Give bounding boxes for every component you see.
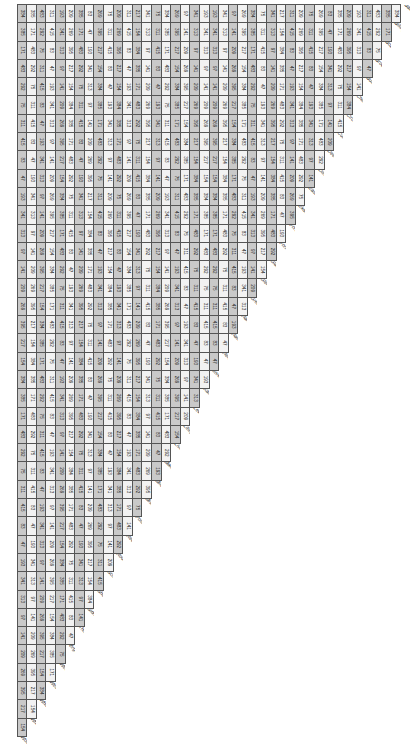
empty-cell <box>363 96 373 114</box>
empty-cell <box>286 736 296 754</box>
distance-cell: 47 <box>238 242 248 260</box>
distance-cell: 193 <box>132 224 142 242</box>
distance-cell: 483 <box>142 224 152 242</box>
empty-cell <box>391 316 401 334</box>
empty-cell <box>132 572 142 590</box>
distance-cell: 384 <box>46 627 56 645</box>
empty-cell <box>334 370 344 388</box>
empty-cell <box>190 425 200 443</box>
distance-cell: 311 <box>75 96 85 114</box>
city-label: Deer Lodge <box>324 151 334 169</box>
distance-cell: 384 <box>228 133 238 151</box>
empty-cell <box>257 334 267 352</box>
empty-cell <box>46 736 56 754</box>
distance-cell: 313 <box>56 407 66 425</box>
distance-cell: 193 <box>199 5 209 23</box>
distance-cell: 384 <box>315 78 325 96</box>
empty-cell <box>401 78 410 96</box>
empty-cell <box>391 261 401 279</box>
empty-cell <box>334 261 344 279</box>
empty-cell <box>391 169 401 187</box>
empty-cell <box>343 700 353 718</box>
empty-cell <box>401 425 410 443</box>
empty-cell <box>363 352 373 370</box>
distance-cell: 292 <box>36 23 46 41</box>
distance-cell: 384 <box>132 407 142 425</box>
distance-cell: 154 <box>17 352 27 370</box>
distance-cell: 47 <box>257 78 267 96</box>
empty-cell <box>190 627 200 645</box>
city-name: Circle <box>345 114 353 126</box>
empty-cell <box>353 151 363 169</box>
mileage-chart: Baker384Billings385171Bozeman48329275Bro… <box>0 0 412 755</box>
distance-cell: 141 <box>286 151 296 169</box>
distance-cell: 83 <box>363 41 373 59</box>
empty-cell <box>391 425 401 443</box>
distance-cell: 483 <box>161 59 171 77</box>
empty-cell <box>171 700 181 718</box>
empty-cell <box>190 553 200 571</box>
empty-cell <box>305 700 315 718</box>
empty-cell <box>219 590 229 608</box>
distance-cell: 47 <box>151 444 161 462</box>
empty-cell <box>276 297 286 315</box>
empty-cell <box>353 499 363 517</box>
empty-cell <box>123 590 133 608</box>
empty-cell <box>257 499 267 517</box>
city-name: Ekalaka <box>297 206 305 221</box>
empty-cell <box>343 663 353 681</box>
empty-cell <box>353 279 363 297</box>
empty-cell <box>267 407 277 425</box>
distance-cell: 83 <box>65 242 75 260</box>
table-row: 3851714832927531141583471933413139714120… <box>27 5 37 755</box>
distance-cell: 83 <box>84 5 94 23</box>
distance-cell: 171 <box>276 78 286 96</box>
empty-cell <box>401 645 410 663</box>
empty-cell <box>382 59 392 77</box>
empty-cell <box>315 663 325 681</box>
empty-cell <box>276 718 286 736</box>
distance-cell: 217 <box>295 59 305 77</box>
empty-cell <box>267 608 277 626</box>
distance-cell: 75 <box>75 78 85 96</box>
city-name: Roundup <box>115 553 123 570</box>
distance-cell: 217 <box>132 370 142 388</box>
distance-cell: 217 <box>36 645 46 663</box>
empty-cell <box>295 608 305 626</box>
empty-cell <box>247 535 257 553</box>
empty-cell <box>247 444 257 462</box>
distance-cell: 395 <box>267 114 277 132</box>
empty-cell <box>286 407 296 425</box>
distance-cell: 141 <box>113 352 123 370</box>
distance-cell: 395 <box>142 114 152 132</box>
distance-cell: 141 <box>324 114 334 132</box>
empty-cell <box>161 499 171 517</box>
distance-cell: 217 <box>36 279 46 297</box>
distance-cell: 154 <box>56 535 66 553</box>
distance-cell: 385 <box>65 114 75 132</box>
empty-cell <box>286 681 296 699</box>
empty-cell <box>382 517 392 535</box>
distance-cell: 384 <box>56 187 66 205</box>
empty-cell <box>142 590 152 608</box>
empty-cell <box>363 389 373 407</box>
empty-cell <box>267 334 277 352</box>
empty-cell <box>161 736 171 754</box>
distance-cell: 313 <box>104 133 114 151</box>
distance-cell: 311 <box>305 23 315 41</box>
empty-cell <box>334 681 344 699</box>
empty-cell <box>113 700 123 718</box>
city-name: Great Falls <box>249 297 257 315</box>
distance-cell: 395 <box>171 389 181 407</box>
city-label: Malta <box>161 462 171 480</box>
distance-cell: 193 <box>94 261 104 279</box>
distance-cell: 209 <box>84 499 94 517</box>
distance-cell: 385 <box>151 297 161 315</box>
empty-cell <box>305 297 315 315</box>
empty-cell <box>315 261 325 279</box>
empty-cell <box>267 590 277 608</box>
city-name: Deer Lodge <box>326 151 334 169</box>
empty-cell <box>315 590 325 608</box>
distance-cell: 97 <box>123 133 133 151</box>
distance-cell: 341 <box>238 279 248 297</box>
